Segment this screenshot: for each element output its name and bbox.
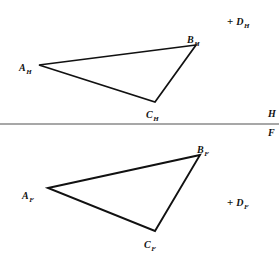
point-label-d-f: +DF — [227, 193, 248, 209]
vertex-label-c-f-base: C — [144, 239, 151, 250]
figure-drawing-area — [0, 0, 279, 259]
vertex-label-b-h-subscript: H — [194, 40, 200, 48]
vertex-label-a-f-base: A — [22, 190, 29, 201]
vertex-label-a-h-base: A — [19, 62, 26, 73]
vertex-label-b-f-subscript: F — [204, 150, 209, 158]
triangle-horizontal-view — [39, 45, 196, 102]
fold-line-label-h: H — [268, 109, 276, 119]
vertex-label-c-h-subscript: H — [153, 115, 159, 123]
projection-diagram-canvas: AH BH CH +DH H F AF BF CF +DF — [0, 0, 279, 259]
fold-line-label-f: F — [268, 128, 275, 138]
vertex-label-c-f-subscript: F — [151, 245, 156, 253]
point-label-d-h: +DH — [227, 12, 249, 28]
vertex-label-b-h: BH — [187, 30, 200, 46]
vertex-label-a-f-subscript: F — [29, 196, 34, 204]
plus-marker-icon-d-f: + — [227, 196, 233, 208]
point-label-d-h-base: D — [236, 16, 243, 27]
triangle-frontal-view — [48, 155, 200, 231]
plus-marker-icon-d-h: + — [227, 15, 233, 27]
vertex-label-b-h-base: B — [187, 34, 194, 45]
vertex-label-c-h-base: C — [146, 109, 153, 120]
point-label-d-f-base: D — [236, 197, 243, 208]
vertex-label-a-f: AF — [22, 186, 34, 202]
vertex-label-a-h: AH — [19, 58, 32, 74]
point-label-d-f-subscript: F — [244, 203, 249, 211]
vertex-label-a-h-subscript: H — [26, 68, 32, 76]
point-label-d-h-subscript: H — [244, 22, 249, 30]
vertex-label-b-f: BF — [197, 140, 209, 156]
vertex-label-c-h: CH — [146, 105, 159, 121]
vertex-label-b-f-base: B — [197, 144, 204, 155]
vertex-label-c-f: CF — [144, 235, 156, 251]
